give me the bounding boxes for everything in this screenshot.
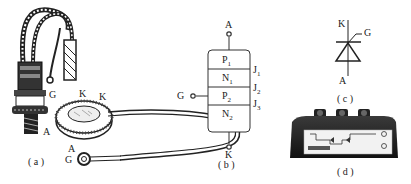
caption-d: ( d ) [337, 167, 354, 177]
thyristor-module-image [0, 0, 411, 184]
